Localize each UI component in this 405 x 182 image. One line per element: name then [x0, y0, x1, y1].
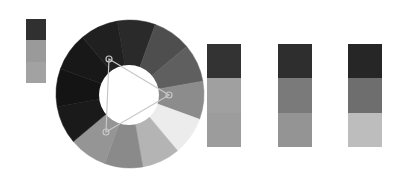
palette-2-swatch-3[interactable]: [278, 113, 312, 147]
color-wheel[interactable]: [0, 0, 405, 182]
palette-column-2: [278, 44, 312, 147]
palette-1-swatch-1[interactable]: [207, 44, 241, 78]
palette-3-swatch-3[interactable]: [348, 113, 382, 147]
palette-1-swatch-3[interactable]: [207, 113, 241, 147]
palette-3-swatch-2[interactable]: [348, 78, 382, 112]
palette-column-1: [207, 44, 241, 147]
palette-1-swatch-2[interactable]: [207, 78, 241, 112]
palette-2-swatch-2[interactable]: [278, 78, 312, 112]
palette-column-3: [348, 44, 382, 147]
palette-3-swatch-1[interactable]: [348, 44, 382, 78]
palette-2-swatch-1[interactable]: [278, 44, 312, 78]
